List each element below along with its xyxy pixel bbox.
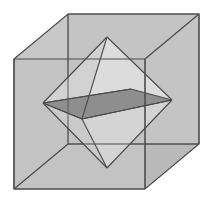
figure-root	[0, 0, 212, 204]
octahedron-in-cube-figure	[0, 0, 212, 204]
